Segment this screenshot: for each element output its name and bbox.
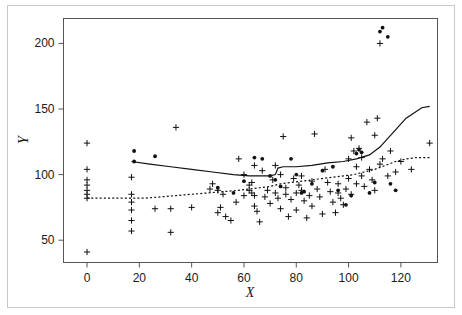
filled-circle-marker [344,203,348,207]
filled-circle-marker [242,179,246,183]
filled-circle-marker [153,154,157,158]
y-axis-title: Y [16,134,31,144]
x-tick-label: 40 [185,271,199,285]
filled-circle-marker [389,182,393,186]
filled-circle-marker [294,173,298,177]
y-tick-label: 100 [34,168,54,182]
filled-circle-marker [331,165,335,169]
y-axis: 50100150200 [34,36,63,247]
filled-circle-marker [360,150,364,154]
filled-circle-marker [260,157,264,161]
filled-circle-marker [381,26,385,30]
filled-circle-marker [132,160,136,164]
x-tick-label: 0 [84,271,91,285]
plot-panel-border [64,19,438,263]
filled-circle-marker [373,181,377,185]
x-tick-label: 20 [133,271,147,285]
filled-circle-marker [321,169,325,173]
filled-circle-marker [349,194,353,198]
filled-circle-marker [336,188,340,192]
filled-circle-marker [132,149,136,153]
filled-circle-marker [386,35,390,39]
y-tick-label: 50 [41,233,55,247]
filled-circle-marker [232,191,236,195]
filled-circle-marker [289,157,293,161]
scatter-plot-figure: 50100150200 020406080100120 Y X [0,0,462,315]
x-tick-label: 100 [339,271,359,285]
x-tick-label: 120 [391,271,411,285]
filled-circle-marker [355,152,359,156]
y-tick-label: 150 [34,102,54,116]
filled-circle-marker [273,178,277,182]
filled-circle-marker [378,30,382,34]
filled-circle-marker [394,188,398,192]
filled-circle-marker [302,190,306,194]
plot-canvas: 50100150200 020406080100120 Y X [0,0,462,315]
filled-circle-marker [310,182,314,186]
x-axis-title: X [245,285,255,300]
filled-circle-marker [368,191,372,195]
filled-circle-marker [279,185,283,189]
filled-circle-marker [268,174,272,178]
filled-circle-marker [216,186,220,190]
x-axis: 020406080100120 [84,263,412,285]
x-tick-label: 60 [237,271,251,285]
x-tick-label: 80 [290,271,304,285]
y-tick-label: 200 [34,36,54,50]
filled-circle-marker [253,156,257,160]
